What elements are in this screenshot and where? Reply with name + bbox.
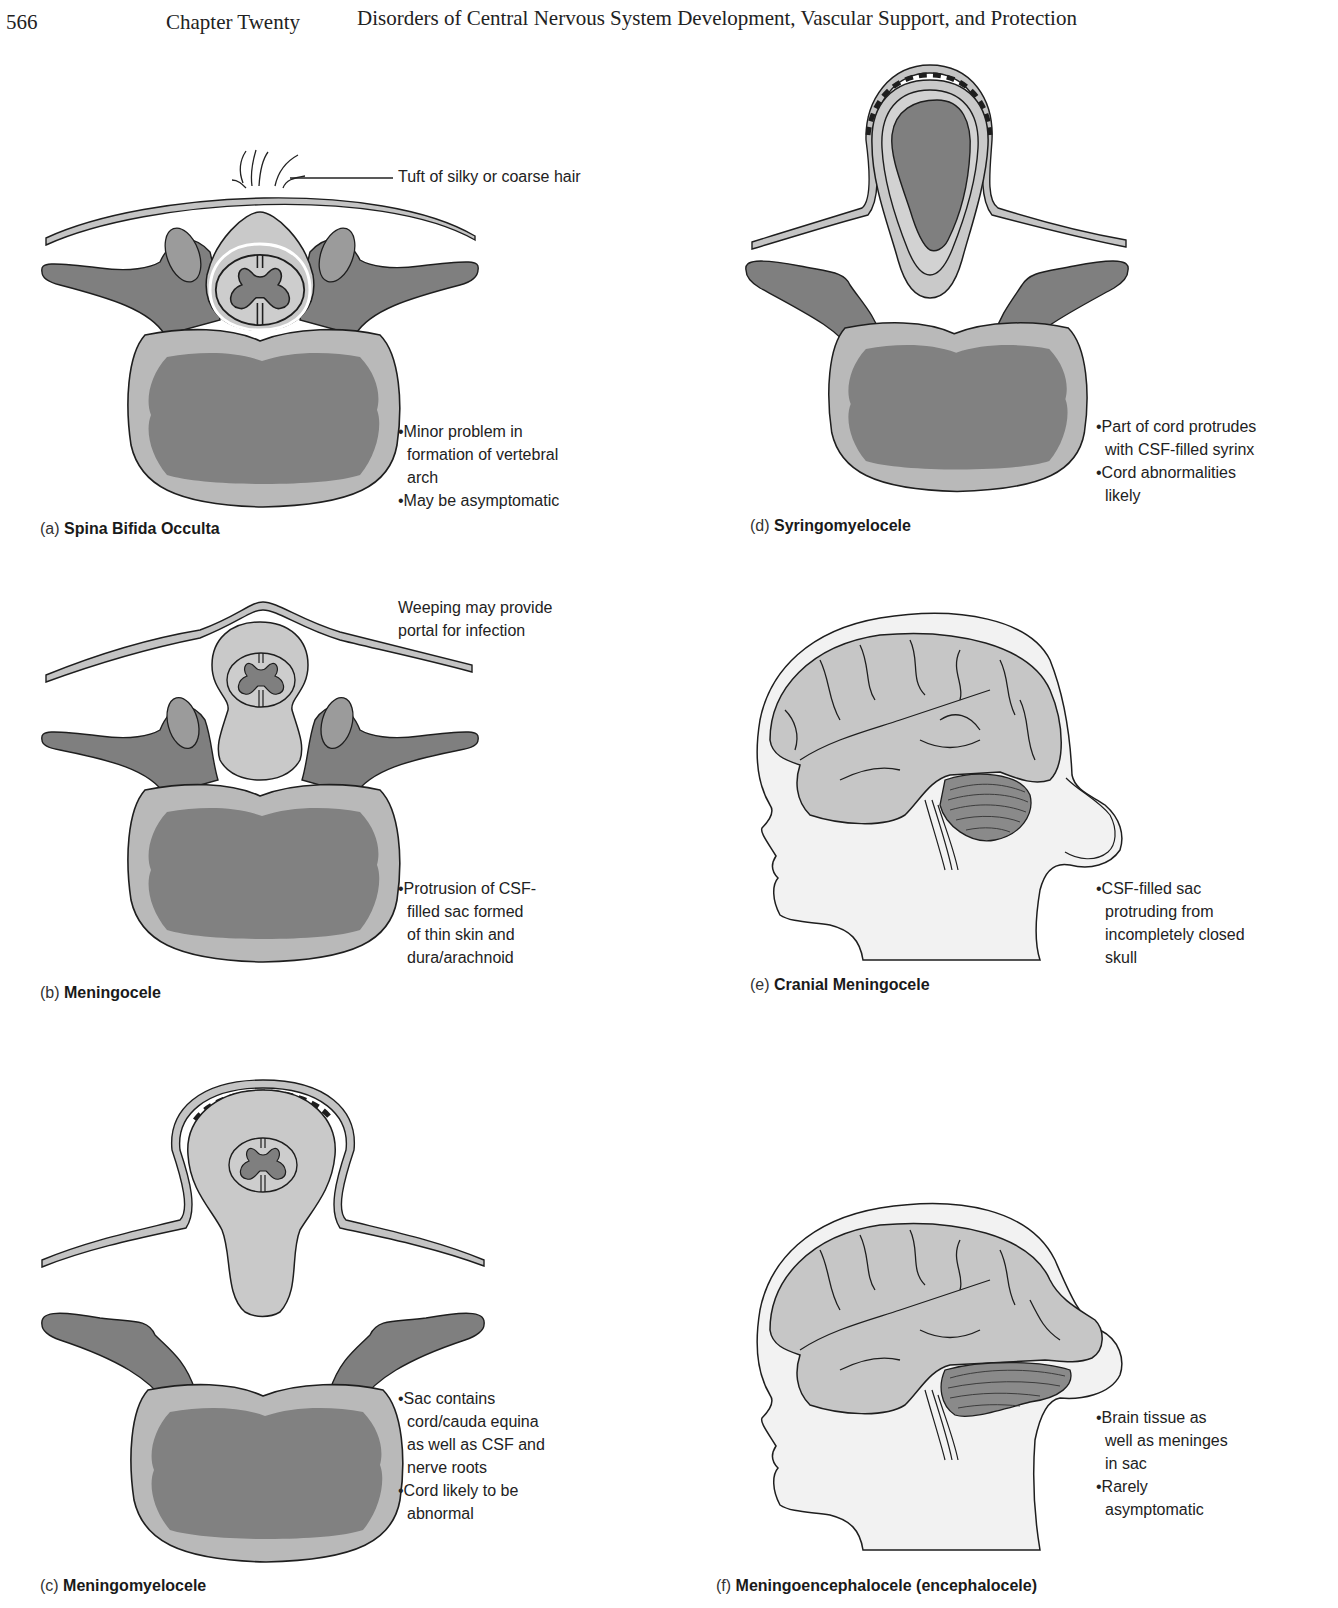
caption-d-name: Syringomyelocele [774, 517, 911, 534]
note-bullet: •Minor problem in [398, 420, 559, 443]
cranial-meningocele-notes: •CSF-filled sac protruding from incomple… [1096, 877, 1245, 969]
caption-b-name: Meningocele [64, 984, 161, 1001]
note-bullet: •Cord likely to be [398, 1479, 545, 1502]
hair-tuft-callout: Tuft of silky or coarse hair [398, 165, 581, 188]
panel-spina-bifida-occulta: Tuft of silky or coarse hair •Minor prob… [0, 0, 680, 560]
syringomyelocele-notes: •Part of cord protrudes with CSF-filled … [1096, 415, 1256, 507]
caption-b: (b) Meningocele [40, 984, 161, 1002]
meningocele-illustration [0, 580, 680, 1020]
caption-f-name: Meningoencephalocele (encephalocele) [736, 1577, 1037, 1594]
meningoencephalocele-illustration [700, 1170, 1338, 1608]
meningocele-notes: •Protrusion of CSF- filled sac formed of… [398, 877, 536, 969]
meningomyelocele-notes: •Sac contains cord/cauda equina as well … [398, 1387, 545, 1525]
caption-a: (a) Spina Bifida Occulta [40, 520, 220, 538]
note-bullet: •Brain tissue as [1096, 1406, 1228, 1429]
note-bullet: •Rarely [1096, 1475, 1228, 1498]
panel-cranial-meningocele: •CSF-filled sac protruding from incomple… [700, 600, 1338, 1020]
note-bullet: •Sac contains [398, 1387, 545, 1410]
caption-e: (e) Cranial Meningocele [750, 976, 930, 994]
panel-syringomyelocele: •Part of cord protrudes with CSF-filled … [700, 60, 1338, 560]
caption-e-name: Cranial Meningocele [774, 976, 930, 993]
spina-bifida-occulta-illustration [0, 0, 680, 560]
meningoencephalocele-notes: •Brain tissue as well as meninges in sac… [1096, 1406, 1228, 1521]
panel-meningoencephalocele: •Brain tissue as well as meninges in sac… [700, 1170, 1338, 1608]
note-bullet: •May be asymptomatic [398, 489, 559, 512]
spina-bifida-occulta-notes: •Minor problem in formation of vertebral… [398, 420, 559, 512]
caption-c-name: Meningomyelocele [63, 1577, 206, 1594]
infection-callout: Weeping may provide portal for infection [398, 596, 552, 642]
meningomyelocele-illustration [0, 1060, 680, 1608]
note-bullet: •Protrusion of CSF- [398, 877, 536, 900]
note-bullet: •Cord abnormalities [1096, 461, 1256, 484]
panel-meningomyelocele: •Sac contains cord/cauda equina as well … [0, 1060, 680, 1608]
panel-meningocele: Weeping may provide portal for infection… [0, 580, 680, 1020]
note-bullet: •Part of cord protrudes [1096, 415, 1256, 438]
note-bullet: •CSF-filled sac [1096, 877, 1245, 900]
hair-tuft-icon [232, 150, 305, 188]
caption-a-name: Spina Bifida Occulta [64, 520, 220, 537]
caption-f: (f) Meningoencephalocele (encephalocele) [716, 1577, 1037, 1595]
caption-d: (d) Syringomyelocele [750, 517, 911, 535]
caption-c: (c) Meningomyelocele [40, 1577, 206, 1595]
